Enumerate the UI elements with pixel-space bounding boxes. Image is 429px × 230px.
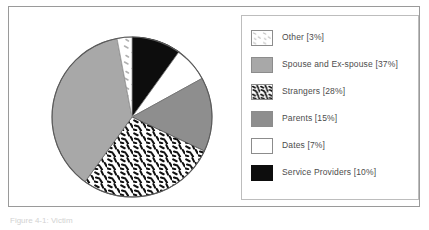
legend-swatch-strangers <box>251 84 273 100</box>
legend-swatch-parents <box>251 111 273 127</box>
pie-chart <box>42 27 222 199</box>
legend-item-service-providers: Service Providers [10%] <box>242 159 418 186</box>
legend-label-service-providers: Service Providers [10%] <box>282 168 376 177</box>
pie-chart-svg <box>42 27 222 199</box>
chart-legend: Other [3%] Spouse and Ex-spouse [37%] St… <box>241 15 419 200</box>
legend-swatch-spouse-and-ex-spouse <box>251 57 273 73</box>
legend-item-spouse-and-ex-spouse: Spouse and Ex-spouse [37%] <box>242 51 418 78</box>
legend-label-parents: Parents [15%] <box>282 114 337 123</box>
figure-frame: Other [3%] Spouse and Ex-spouse [37%] St… <box>8 6 420 207</box>
sparse-dashes-icon <box>252 31 272 45</box>
legend-label-other: Other [3%] <box>282 33 324 42</box>
figure-caption: Figure 4-1: Victim <box>10 214 250 228</box>
legend-swatch-service-providers <box>251 165 273 181</box>
legend-label-strangers: Strangers [28%] <box>282 87 345 96</box>
legend-swatch-dates <box>251 138 273 154</box>
legend-label-spouse-and-ex-spouse: Spouse and Ex-spouse [37%] <box>282 60 398 69</box>
legend-swatch-other <box>251 30 273 46</box>
legend-item-dates: Dates [7%] <box>242 132 418 159</box>
legend-item-parents: Parents [15%] <box>242 105 418 132</box>
dense-dashes-icon <box>252 85 272 99</box>
legend-label-dates: Dates [7%] <box>282 141 325 150</box>
legend-item-strangers: Strangers [28%] <box>242 78 418 105</box>
legend-item-other: Other [3%] <box>242 24 418 51</box>
figure-root: Other [3%] Spouse and Ex-spouse [37%] St… <box>0 0 429 230</box>
